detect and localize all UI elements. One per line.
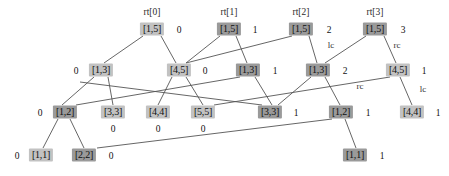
tree-edge [62,77,94,105]
tree-node[interactable]: [1,3] [89,64,113,77]
root-pointer-label: rt[3] [367,7,384,18]
tree-edge [70,119,84,148]
tree-edge [278,77,311,105]
node-value-label: 1 [422,66,427,77]
tree-node[interactable]: [4,4] [400,106,424,119]
tree-edge [158,77,172,105]
tree-node[interactable]: [3,3] [258,106,282,119]
tree-node[interactable]: [1,3] [236,64,260,77]
node-value-label: 0 [74,66,79,77]
node-value-label: 1 [273,66,278,77]
node-value-label: 0 [38,108,43,119]
tree-node[interactable]: [1,3] [306,64,330,77]
tree-edge [108,77,113,105]
node-value-label: 3 [401,25,406,36]
root-pointer-label: rt[2] [293,7,310,18]
tree-edge [43,119,58,148]
tree-node[interactable]: [4,5] [167,64,191,77]
tree-node[interactable]: [1,2] [53,106,77,119]
tree-edge [80,82,262,105]
edge-label: lc [328,40,335,51]
tree-edge [214,77,390,105]
node-value-label: 0 [111,124,116,135]
tree-node[interactable]: [4,5] [386,64,410,77]
node-value-label: 2 [343,66,348,77]
tree-edge [236,36,247,63]
node-value-label: 0 [201,124,206,135]
tree-edge [186,77,203,105]
tree-node[interactable]: [1,5] [140,23,164,36]
tree-node[interactable]: [1,5] [217,23,241,36]
node-value-label: 0 [109,151,114,162]
node-value-label: 1 [294,108,299,119]
node-value-label: 0 [15,151,20,162]
tree-edge [325,77,340,105]
tree-node[interactable]: [4,4] [146,106,170,119]
edge-label: rc [394,40,401,51]
tree-node[interactable]: [3,3] [101,106,125,119]
tree-edge [161,36,176,63]
tree-edge [76,77,240,105]
tree-edge [400,77,412,105]
tree-node[interactable]: [5,5] [191,106,215,119]
root-pointer-label: rt[1] [221,7,238,18]
tree-edge [309,36,317,63]
tree-node[interactable]: [1,2] [329,106,353,119]
tree-edge [255,77,272,105]
tree-edge [186,36,220,63]
node-value-label: 1 [366,108,371,119]
tree-edge [186,36,292,63]
tree-node[interactable]: [1,5] [363,23,387,36]
node-value-label: 0 [203,66,208,77]
tree-node[interactable]: [2,2] [72,149,96,162]
persistent-segment-tree-diagram: [1,5][1,5][1,5][1,5][1,3][4,5][1,3][1,3]… [0,0,449,176]
tree-node[interactable]: [1,1] [343,149,367,162]
root-pointer-label: rt[0] [144,7,161,18]
tree-node[interactable]: [1,1] [29,149,53,162]
tree-edge [345,119,356,148]
node-value-label: 0 [156,124,161,135]
tree-edge [104,36,143,63]
node-value-label: 1 [253,25,258,36]
node-value-label: 2 [327,25,332,36]
edge-label: rc [357,81,364,92]
edge-label: lc [420,84,427,95]
tree-node[interactable]: [1,5] [289,23,313,36]
tree-edge [97,119,332,148]
node-value-label: 1 [380,151,385,162]
node-value-label: 1 [436,108,441,119]
node-value-label: 0 [177,25,182,36]
